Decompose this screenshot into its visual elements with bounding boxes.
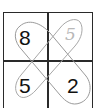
loop-overlay [0, 0, 97, 108]
cell-r1-c1-digit[interactable]: 2 [67, 75, 79, 96]
cell-r0-c0-digit[interactable]: 8 [19, 27, 31, 48]
cell-r1-c0-digit[interactable]: 5 [19, 75, 31, 96]
cell-r0-c1-digit[interactable]: 5 [65, 26, 76, 43]
